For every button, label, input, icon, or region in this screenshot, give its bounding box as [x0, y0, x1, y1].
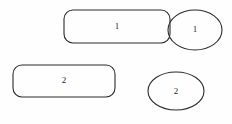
shape-label-ellipse-bottom: 2 — [174, 86, 179, 96]
shape-rounded-rect-bottom[interactable]: 2 — [13, 65, 115, 97]
shape-ellipse-bottom[interactable]: 2 — [148, 72, 204, 110]
diagram-canvas: 1 1 2 2 — [0, 0, 232, 124]
shape-diagram-svg: 1 1 2 2 — [0, 0, 232, 124]
shape-label-rect-top: 1 — [115, 21, 120, 31]
shape-rounded-rect-top[interactable]: 1 — [64, 10, 170, 43]
shape-ellipse-top[interactable]: 1 — [168, 10, 222, 50]
shape-label-ellipse-top: 1 — [193, 24, 198, 34]
shape-label-rect-bottom: 2 — [62, 75, 67, 85]
